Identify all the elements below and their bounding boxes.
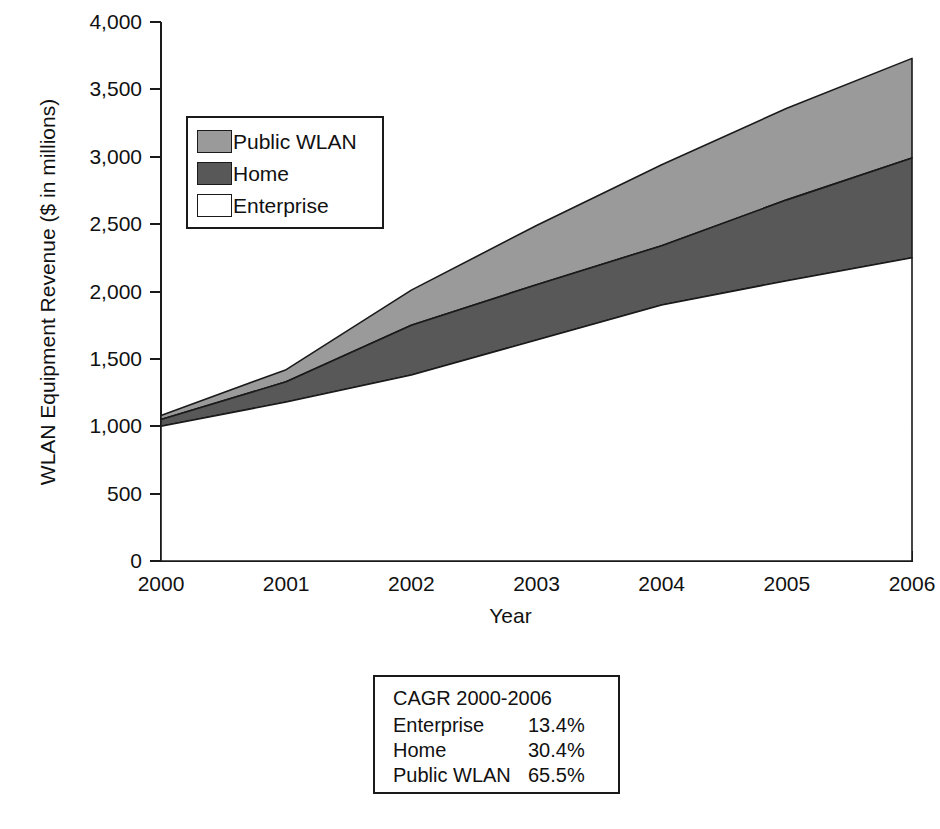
- x-tick-2000: [160, 551, 162, 562]
- y-tick-label-wrap-2500: 2,500: [38, 213, 142, 234]
- area-band-enterprise: [161, 258, 912, 561]
- cagr-name-enterprise: Enterprise: [393, 713, 528, 738]
- legend-swatch-enterprise: [197, 194, 232, 217]
- x-tick-label-2006: 2006: [857, 572, 940, 596]
- cagr-name-home: Home: [393, 738, 528, 763]
- y-tick-label-wrap-4000: 4,000: [38, 11, 142, 32]
- y-tick-label-wrap-1500: 1,500: [38, 348, 142, 369]
- y-tick-label-3000: 3,000: [42, 146, 142, 167]
- y-tick-label-wrap-0: 0: [38, 550, 142, 571]
- cagr-row-enterprise: Enterprise 13.4%: [393, 713, 618, 738]
- x-tick-2006: [911, 551, 913, 562]
- legend-item-home[interactable]: Home: [197, 157, 374, 189]
- x-tick-label-2001: 2001: [231, 572, 341, 596]
- x-axis-title: Year: [0, 604, 935, 628]
- y-tick-label-1500: 1,500: [42, 348, 142, 369]
- legend-item-enterprise[interactable]: Enterprise: [197, 189, 374, 221]
- area-band-public-wlan: [161, 58, 912, 419]
- legend-item-public-wlan[interactable]: Public WLAN: [197, 125, 374, 157]
- y-tick-label-wrap-3500: 3,500: [38, 78, 142, 99]
- x-tick-label-2002: 2002: [356, 572, 466, 596]
- y-tick-label-wrap-3000: 3,000: [38, 146, 142, 167]
- x-axis-title-text: Year: [403, 604, 531, 628]
- y-tick-1000: [150, 425, 161, 427]
- y-tick-label-wrap-1000: 1,000: [38, 415, 142, 436]
- legend-label-home: Home: [233, 163, 289, 184]
- y-tick-label-500: 500: [42, 483, 142, 504]
- y-tick-500: [150, 493, 161, 495]
- y-tick-3000: [150, 156, 161, 158]
- cagr-value-public-wlan: 65.5%: [528, 763, 600, 788]
- x-tick-label-2003: 2003: [482, 572, 592, 596]
- y-tick-label-wrap-2000: 2,000: [38, 281, 142, 302]
- y-tick-label-4000: 4,000: [42, 11, 142, 32]
- legend-swatch-home: [197, 162, 232, 185]
- cagr-value-home: 30.4%: [528, 738, 600, 763]
- y-tick-2500: [150, 223, 161, 225]
- legend: Public WLAN Home Enterprise: [186, 116, 384, 229]
- cagr-value-enterprise: 13.4%: [528, 713, 600, 738]
- x-tick-2001: [285, 551, 287, 562]
- x-tick-label-2000: 2000: [106, 572, 216, 596]
- x-tick-2002: [410, 551, 412, 562]
- y-tick-label-1000: 1,000: [42, 415, 142, 436]
- y-tick-3500: [150, 88, 161, 90]
- y-tick-label-2000: 2,000: [42, 281, 142, 302]
- y-tick-2000: [150, 291, 161, 293]
- x-tick-label-2005: 2005: [732, 572, 842, 596]
- y-tick-label-2500: 2,500: [42, 213, 142, 234]
- x-tick-2005: [786, 551, 788, 562]
- cagr-table-title: CAGR 2000-2006: [393, 684, 618, 713]
- x-tick-label-2004: 2004: [607, 572, 717, 596]
- y-tick-label-3500: 3,500: [42, 78, 142, 99]
- x-tick-2004: [661, 551, 663, 562]
- cagr-row-public-wlan: Public WLAN 65.5%: [393, 763, 618, 788]
- cagr-name-public-wlan: Public WLAN: [393, 763, 528, 788]
- y-tick-4000: [150, 21, 161, 23]
- y-tick-label-0: 0: [42, 550, 142, 571]
- y-tick-1500: [150, 358, 161, 360]
- x-tick-2003: [536, 551, 538, 562]
- y-tick-label-wrap-500: 500: [38, 483, 142, 504]
- cagr-table: CAGR 2000-2006 Enterprise 13.4% Home 30.…: [373, 675, 620, 794]
- legend-swatch-public-wlan: [197, 130, 232, 153]
- legend-label-enterprise: Enterprise: [233, 195, 329, 216]
- legend-label-public-wlan: Public WLAN: [233, 131, 357, 152]
- cagr-row-home: Home 30.4%: [393, 738, 618, 763]
